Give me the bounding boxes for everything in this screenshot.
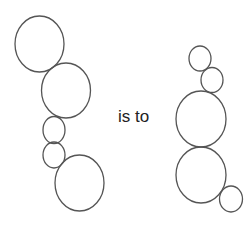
left-circle-1 bbox=[15, 16, 64, 72]
left-circle-2 bbox=[42, 63, 91, 118]
right-circle-2 bbox=[201, 68, 223, 93]
left-circle-3 bbox=[43, 117, 65, 144]
right-circle-1 bbox=[189, 46, 211, 71]
right-circle-3 bbox=[176, 91, 226, 147]
left-circle-5 bbox=[55, 155, 104, 211]
left-circle-figure bbox=[15, 16, 104, 211]
right-circle-5 bbox=[220, 186, 243, 212]
right-circle-4 bbox=[176, 147, 226, 203]
connector-label: is to bbox=[118, 107, 178, 127]
right-circle-figure bbox=[176, 46, 243, 212]
